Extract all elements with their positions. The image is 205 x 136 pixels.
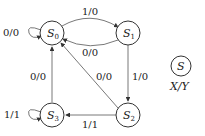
edge-s0-self <box>29 28 42 38</box>
label-s0-self: 0/0 <box>3 27 19 38</box>
edge-s0-s1 <box>62 18 118 27</box>
legend: S X/Y <box>169 56 191 93</box>
edge-s3-self <box>29 110 42 120</box>
label-s3-s0: 0/0 <box>30 71 46 82</box>
state-s1: S1 <box>116 21 140 45</box>
label-s1-s2: 1/0 <box>132 71 148 82</box>
state-s3: S3 <box>40 103 64 127</box>
label-s3-self: 1/1 <box>4 109 20 120</box>
label-s1-s0: 0/0 <box>82 47 98 58</box>
legend-io-label: X/Y <box>169 80 191 93</box>
label-s2-s3: 1/1 <box>82 119 98 130</box>
label-s2-s0: 0/0 <box>96 71 112 82</box>
label-s0-s1: 1/0 <box>82 6 98 17</box>
state-s2: S2 <box>116 103 140 127</box>
edge-s1-s0 <box>63 39 118 46</box>
legend-state-label: S <box>177 60 185 73</box>
state-diagram: S0 S1 S2 S3 1/0 0/0 1/0 0/0 1/1 0/0 0/0 … <box>0 0 205 136</box>
state-s0: S0 <box>40 21 64 45</box>
